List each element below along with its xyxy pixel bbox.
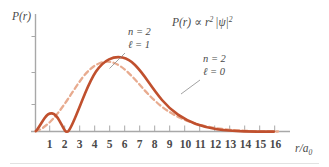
x-axis-label: r/a0 xyxy=(295,142,312,157)
radial-probability-figure: P(r) r/a0 1 2 3 4 5 6 7 8 9 10 11 12 13 … xyxy=(0,0,329,167)
annotation-n2-l1: n = 2 ℓ = 1 xyxy=(128,26,152,50)
bottom-divider xyxy=(10,163,319,164)
svg-text:5: 5 xyxy=(107,138,113,150)
svg-text:r/a0: r/a0 xyxy=(295,142,312,157)
svg-text:6: 6 xyxy=(122,138,128,150)
svg-text:P(r)∝r2|ψ|2: P(r)∝r2|ψ|2 xyxy=(171,15,233,29)
svg-text:ℓ = 1: ℓ = 1 xyxy=(128,39,150,50)
svg-text:10: 10 xyxy=(180,138,192,150)
formula-annotation: P(r)∝r2|ψ|2 xyxy=(171,15,233,29)
y-axis-label: P(r) xyxy=(11,10,31,23)
leader-line-l1 xyxy=(110,53,126,69)
plot-canvas: P(r) r/a0 1 2 3 4 5 6 7 8 9 10 11 12 13 … xyxy=(0,0,329,167)
svg-text:2: 2 xyxy=(62,138,68,150)
curve-n2-l1 xyxy=(36,62,279,132)
svg-text:7: 7 xyxy=(137,138,143,150)
annotation-n2-l0: n = 2 ℓ = 0 xyxy=(203,53,227,77)
svg-text:3: 3 xyxy=(77,138,83,150)
leader-line-l0 xyxy=(181,80,200,94)
svg-text:8: 8 xyxy=(152,138,158,150)
svg-text:13: 13 xyxy=(225,138,237,150)
x-tick-labels: 1 2 3 4 5 6 7 8 9 10 11 12 13 14 15 16 xyxy=(47,138,282,150)
svg-text:9: 9 xyxy=(167,138,173,150)
svg-text:n = 2: n = 2 xyxy=(203,53,227,64)
svg-text:12: 12 xyxy=(210,138,222,150)
svg-text:11: 11 xyxy=(195,138,206,150)
svg-text:14: 14 xyxy=(240,138,252,150)
svg-text:1: 1 xyxy=(47,138,53,150)
svg-text:n = 2: n = 2 xyxy=(128,26,152,37)
svg-text:ℓ = 0: ℓ = 0 xyxy=(203,66,226,77)
svg-text:15: 15 xyxy=(255,138,267,150)
svg-text:4: 4 xyxy=(92,138,98,150)
svg-text:16: 16 xyxy=(270,138,282,150)
